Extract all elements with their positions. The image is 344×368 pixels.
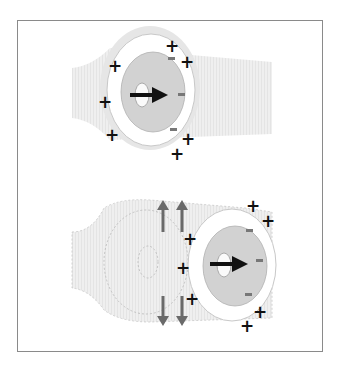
bottom-panel: + + + + + + +	[72, 196, 276, 336]
diagram: + + + + + + + + + +	[0, 0, 344, 368]
svg-text:+: +	[240, 316, 254, 336]
svg-text:+: +	[261, 211, 275, 231]
svg-text:+: +	[246, 196, 260, 216]
svg-text:+: +	[170, 144, 184, 164]
top-panel: + + + + + + +	[72, 26, 272, 164]
svg-text:+: +	[253, 302, 267, 322]
top-inner-body	[121, 52, 185, 132]
svg-text:+: +	[105, 125, 119, 145]
svg-text:+: +	[98, 92, 112, 112]
svg-text:+: +	[185, 289, 199, 309]
svg-text:+: +	[165, 36, 179, 56]
svg-text:+: +	[180, 52, 194, 72]
svg-text:+: +	[108, 56, 122, 76]
svg-text:+: +	[176, 258, 190, 278]
svg-text:+: +	[183, 229, 197, 249]
